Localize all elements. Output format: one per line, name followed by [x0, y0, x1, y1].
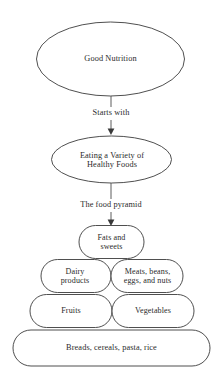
arrowhead-food-pyramid	[108, 220, 115, 227]
diagram-canvas	[0, 0, 222, 384]
node-good-nutrition-shape[interactable]	[37, 22, 185, 96]
tier1-cell-fats-and-sweets-shape[interactable]	[79, 226, 144, 259]
tier4-cell-breads-cereals-pasta-rice-shape[interactable]	[13, 330, 210, 366]
tier2-cell-meats-beans-eggs-nuts-shape[interactable]	[111, 260, 183, 293]
nutrition-flowchart: Good Nutrition Starts with Eating a Vari…	[0, 0, 222, 384]
node-eating-variety-shape[interactable]	[52, 136, 172, 183]
tier2-cell-dairy-products-shape[interactable]	[41, 260, 111, 293]
arrowhead-starts-with	[108, 129, 115, 136]
tier3-cell-fruits-shape[interactable]	[30, 295, 112, 328]
tier3-cell-vegetables-shape[interactable]	[112, 295, 194, 328]
